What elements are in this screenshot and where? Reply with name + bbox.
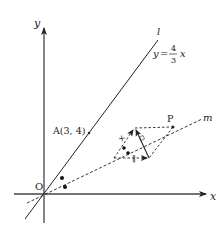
line-l-label: l [157, 26, 160, 37]
coordinate-diagram: x y O l y = 4 3 x A(3, 4) m P × [0, 0, 223, 234]
point-p [172, 126, 175, 129]
point-a [88, 132, 90, 134]
point-p-label: P [167, 113, 174, 124]
diagonal-vector [136, 130, 149, 158]
line-m-label: m [203, 112, 212, 123]
vertex-dot-lower [126, 151, 130, 155]
svg-text:=: = [160, 48, 168, 59]
cross-mark-icon: × [116, 133, 127, 144]
svg-text:y: y [152, 48, 159, 59]
point-a-label: A(3, 4) [52, 125, 85, 136]
line-l [25, 40, 158, 219]
x-axis-label: x [210, 190, 217, 203]
svg-text:x: x [180, 48, 186, 59]
origin-label: O [35, 181, 43, 192]
svg-text:3: 3 [171, 56, 176, 65]
parallel-mark-icon: ‖ [132, 154, 136, 163]
angle-dot-lower [63, 185, 67, 189]
vertex-dot-upper [122, 146, 126, 150]
y-axis-label: y [33, 17, 41, 30]
line-l-equation: y = 4 3 x [152, 44, 186, 65]
svg-text:4: 4 [171, 44, 176, 53]
angle-dot-upper [60, 176, 64, 180]
